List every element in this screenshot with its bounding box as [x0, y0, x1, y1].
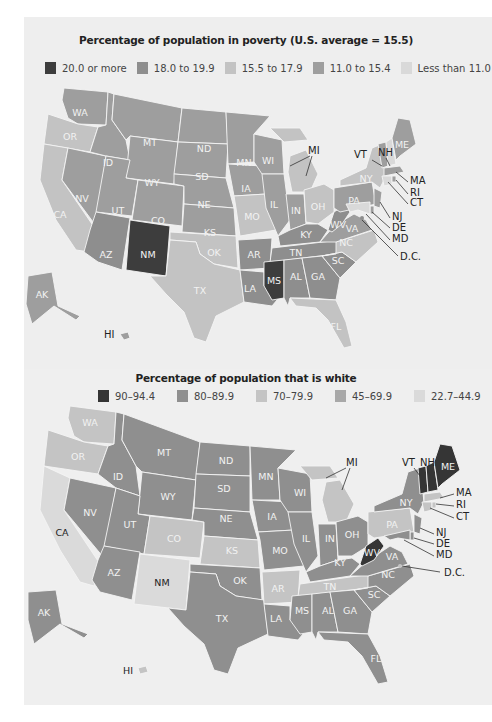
legend-label: 15.5 to 17.9	[242, 63, 303, 74]
callout-label: NH	[378, 147, 393, 158]
state-label: MN	[236, 157, 251, 168]
state-label: NE	[197, 199, 210, 210]
state-label: CO	[167, 533, 181, 544]
callout-label: NJ	[392, 211, 402, 222]
callout-label: CT	[410, 197, 424, 208]
state-HI	[120, 332, 130, 340]
state-label: AL	[322, 605, 334, 616]
state-label: AZ	[107, 567, 120, 578]
state-label: WV	[330, 219, 346, 230]
legend-swatch	[45, 62, 56, 74]
state-label: MS	[295, 605, 309, 616]
state-label: NM	[154, 577, 169, 588]
state-label: CA	[53, 209, 67, 220]
state-NJ	[374, 188, 382, 208]
state-label: WA	[82, 417, 98, 428]
state-label: TX	[215, 613, 229, 624]
state-label: VA	[346, 223, 359, 234]
callout-label: NJ	[436, 527, 446, 538]
state-FL	[290, 298, 352, 348]
state-label: OH	[311, 201, 326, 212]
state-label: KS	[226, 545, 238, 556]
callout-label: VT	[402, 457, 416, 468]
state-label: AK	[36, 289, 49, 300]
legend-item: 20.0 or more	[45, 62, 127, 74]
callout-label: HI	[123, 665, 133, 676]
state-label: OR	[63, 131, 77, 142]
state-label: NY	[360, 173, 373, 184]
state-label: UT	[124, 519, 137, 530]
state-label: SC	[332, 255, 345, 266]
callout-label: NH	[420, 457, 435, 468]
white-population-map-title: Percentage of population that is white	[0, 372, 492, 384]
state-label: PA	[348, 195, 360, 206]
state-label: TN	[289, 247, 303, 258]
state-label: AR	[271, 583, 284, 594]
state-MA	[384, 166, 404, 176]
poverty-map: WA OR CA NV ID MT WY UT CO AZ NM ND SD N…	[0, 80, 492, 380]
legend-swatch	[313, 62, 324, 74]
state-label: IA	[241, 183, 251, 194]
state-label: SD	[217, 483, 230, 494]
state-AZ	[84, 212, 130, 270]
state-DE	[410, 532, 414, 540]
state-label: NC	[339, 237, 353, 248]
callout-label: MI	[308, 145, 320, 156]
state-label: IL	[302, 533, 311, 544]
state-label: ID	[103, 157, 113, 168]
state-NM	[126, 220, 170, 276]
state-label: CO	[151, 215, 165, 226]
legend-swatch	[137, 62, 148, 74]
callout-label: HI	[104, 329, 114, 340]
state-label: KS	[204, 227, 216, 238]
state-label: OK	[233, 575, 247, 586]
state-label: WV	[364, 547, 380, 558]
legend-label: 18.0 to 19.9	[154, 63, 215, 74]
state-label: NM	[140, 249, 155, 260]
state-label: ND	[197, 143, 211, 154]
legend-item: 11.0 to 15.4	[313, 62, 391, 74]
state-label: OR	[71, 451, 85, 462]
state-label: ME	[441, 461, 455, 472]
state-HI	[138, 666, 148, 674]
state-label: MT	[143, 137, 157, 148]
state-label: SC	[368, 589, 381, 600]
legend-label: 11.0 to 15.4	[330, 63, 391, 74]
state-label: UT	[112, 205, 125, 216]
callout-label: DE	[436, 538, 450, 549]
state-label: AR	[247, 249, 260, 260]
legend-label: 20.0 or more	[62, 63, 127, 74]
state-label: KY	[300, 229, 312, 240]
state-label: MS	[267, 275, 281, 286]
state-label: IN	[291, 205, 301, 216]
callout-label: D.C.	[444, 567, 465, 578]
state-label: OH	[345, 529, 360, 540]
state-MI	[288, 150, 318, 192]
state-label: LA	[244, 283, 257, 294]
state-label: FL	[371, 653, 382, 664]
state-AK	[26, 272, 80, 324]
state-label: LA	[270, 613, 283, 624]
state-label: WY	[160, 491, 175, 502]
state-label: ID	[113, 471, 123, 482]
callout-label: DE	[392, 222, 406, 233]
state-CT	[422, 502, 432, 512]
state-label: NV	[83, 507, 97, 518]
callout-label: MD	[436, 549, 453, 560]
legend-label: Less than 11.0	[418, 63, 491, 74]
legend-item: Less than 11.0	[401, 62, 491, 74]
state-label: NY	[400, 497, 413, 508]
state-label: TN	[323, 581, 337, 592]
state-label: KY	[334, 557, 346, 568]
state-label: AL	[290, 271, 302, 282]
state-label: VA	[386, 551, 399, 562]
state-label: AZ	[99, 249, 112, 260]
state-label: OK	[207, 247, 221, 258]
state-MT	[112, 94, 182, 142]
legend-swatch	[401, 62, 412, 74]
callout-label: D.C.	[400, 251, 421, 262]
legend-item: 15.5 to 17.9	[225, 62, 303, 74]
state-WI	[254, 134, 284, 174]
state-RI	[432, 502, 436, 508]
state-label: WI	[262, 155, 274, 166]
